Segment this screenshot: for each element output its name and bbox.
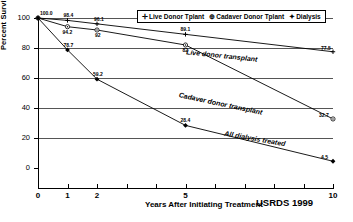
y-axis-title: Percent Surviving	[0, 0, 8, 50]
y-axis-tick-label: 80	[4, 44, 30, 52]
cross-icon: ✛	[142, 13, 148, 20]
x-axis-minor-tick	[156, 184, 157, 188]
y-axis-tick-label: 100	[4, 14, 30, 22]
legend-item-label: Live Donor Tplant	[149, 13, 204, 20]
data-point-label: 4.5	[321, 155, 328, 160]
x-axis-tick	[333, 184, 334, 188]
legend-item: ⊕Cadaver Donor Tplant	[209, 13, 284, 20]
data-point-label: 94.2	[63, 30, 73, 35]
legend-item-label: Dialysis	[296, 13, 321, 20]
data-point-label: 100.0	[40, 11, 53, 16]
cross-marker-icon	[331, 50, 335, 54]
x-axis-tick-label: 5	[176, 192, 196, 200]
x-axis-tick	[97, 184, 98, 188]
y-axis-tick-label: 20	[4, 134, 30, 142]
chart-legend: ✛Live Donor Tplant⊕Cadaver Donor Tplant✦…	[137, 10, 326, 23]
x-axis-title: Years After Initiating Treatment	[145, 200, 263, 209]
x-axis-tick	[186, 184, 187, 188]
legend-item: ✦Dialysis	[289, 13, 321, 20]
chart-root: Percent Surviving 020406080100012510100.…	[0, 0, 353, 222]
y-axis-tick-label: 60	[4, 74, 30, 82]
data-point-label: 98.4	[64, 13, 74, 18]
data-point-label: 89.1	[181, 27, 191, 32]
circle-dot-icon: ⊕	[209, 13, 215, 20]
data-point-label: 32.7	[319, 113, 329, 118]
cross-marker-icon	[183, 32, 187, 36]
cross-marker-icon	[65, 18, 69, 22]
data-point-label: 92	[95, 33, 101, 38]
series-line	[38, 18, 333, 161]
source-credit: USRDS 1999	[256, 197, 313, 208]
x-axis-tick-label: 2	[87, 192, 107, 200]
x-axis-minor-tick	[274, 184, 275, 188]
x-axis-minor-tick	[215, 184, 216, 188]
legend-item-label: Cadaver Donor Tplant	[216, 13, 284, 20]
x-axis-minor-tick	[127, 184, 128, 188]
y-axis-tick-label: 0	[4, 164, 30, 172]
diamond-icon: ✦	[289, 13, 295, 20]
cross-marker-icon	[95, 22, 99, 26]
diamond-marker-icon	[183, 123, 188, 128]
x-axis-tick-label: 10	[323, 192, 343, 200]
x-axis-minor-tick	[245, 184, 246, 188]
plot-area: 020406080100012510100.098.496.189.177.59…	[38, 18, 333, 168]
data-point-label: 28.4	[181, 118, 191, 123]
data-point-label: 77.5	[321, 46, 331, 51]
y-axis-tick-label: 40	[4, 104, 30, 112]
x-axis-tick-label: 1	[58, 192, 78, 200]
legend-item: ✛Live Donor Tplant	[142, 13, 204, 20]
data-point-label: 78.7	[64, 43, 74, 48]
x-axis-minor-tick	[304, 184, 305, 188]
diamond-marker-icon	[331, 159, 336, 164]
data-point-label: 96.1	[94, 17, 104, 22]
x-axis-tick	[68, 184, 69, 188]
circle-dot-marker-icon	[331, 117, 335, 121]
x-axis-tick	[38, 184, 39, 188]
x-axis-tick-label: 0	[28, 192, 48, 200]
x-axis-line	[38, 188, 334, 189]
data-point-label: 59.2	[93, 72, 103, 77]
